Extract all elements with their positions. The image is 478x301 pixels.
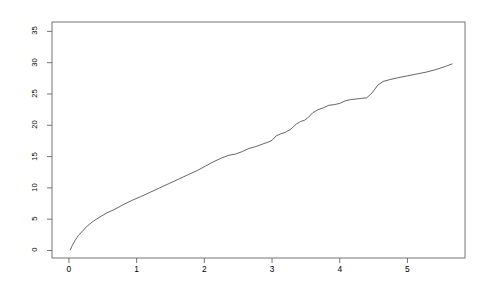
figure-background (0, 0, 478, 301)
y-tick-label: 30 (30, 51, 39, 73)
y-tick-label: 5 (30, 208, 39, 230)
x-tick-label: 3 (260, 264, 284, 274)
x-tick-label: 1 (125, 264, 149, 274)
y-tick-label: 15 (30, 145, 39, 167)
y-tick-label: 0 (30, 239, 39, 261)
qq-plot-figure: QQ-plot of the bootstrap distribution of… (0, 0, 478, 301)
plot-canvas (0, 0, 478, 301)
x-tick-label: 4 (328, 264, 352, 274)
y-tick-label: 35 (30, 20, 39, 42)
y-tick-label: 20 (30, 114, 39, 136)
x-tick-label: 0 (57, 264, 81, 274)
x-tick-label: 5 (395, 264, 419, 274)
y-tick-label: 10 (30, 176, 39, 198)
x-tick-label: 2 (192, 264, 216, 274)
y-tick-label: 25 (30, 82, 39, 104)
